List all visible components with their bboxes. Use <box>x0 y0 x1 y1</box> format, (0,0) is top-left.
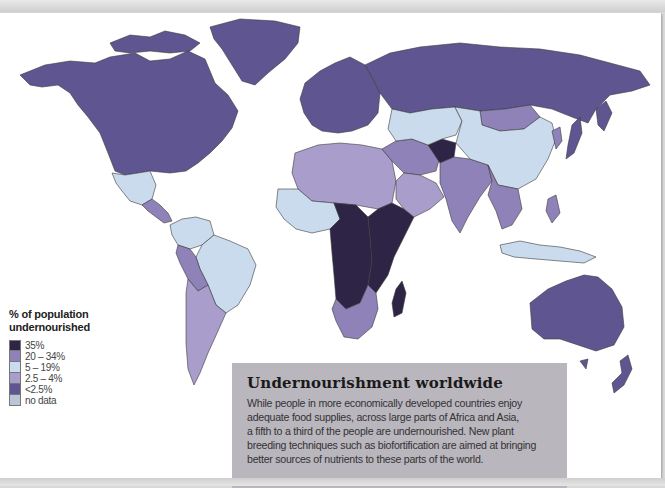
region-tasmania <box>580 359 588 369</box>
legend-swatch <box>9 384 21 395</box>
legend-item: 35% <box>9 340 119 351</box>
region-philippines <box>546 195 560 223</box>
info-box-line: adequate food supplies, across large par… <box>247 410 565 424</box>
legend-label: 5 – 19% <box>25 362 60 373</box>
legend-label: <2.5% <box>25 384 52 395</box>
legend-swatch <box>9 351 21 362</box>
region-greenland <box>210 19 300 85</box>
legend-title-line2: undernourished <box>9 321 119 334</box>
info-box-body: While people in more economically develo… <box>247 396 565 466</box>
legend-item: no data <box>9 395 119 406</box>
info-box-title: Undernourishment worldwide <box>247 374 567 392</box>
info-box-line: better sources of nutrients to these par… <box>247 452 565 466</box>
region-central-america <box>142 199 172 223</box>
legend-label: 20 – 34% <box>25 351 65 362</box>
map-legend: % of population undernourished 35% 20 – … <box>9 308 119 406</box>
top-strip <box>0 0 665 12</box>
region-australia <box>530 275 624 351</box>
region-central-asia <box>388 107 462 145</box>
legend-item: <2.5% <box>9 384 119 395</box>
legend-label: no data <box>25 395 56 406</box>
legend-title: % of population undernourished <box>9 308 119 334</box>
region-arctic-islands <box>110 31 200 53</box>
info-box-line: While people in more economically develo… <box>247 396 565 410</box>
region-india <box>440 157 492 233</box>
region-mexico <box>112 171 156 205</box>
legend-item: 5 – 19% <box>9 362 119 373</box>
map-page: % of population undernourished 35% 20 – … <box>0 13 661 478</box>
region-madagascar <box>392 281 406 317</box>
legend-item: 20 – 34% <box>9 351 119 362</box>
region-east-africa <box>368 203 414 293</box>
legend-label: 2.5 – 4% <box>25 373 62 384</box>
legend-label: 35% <box>25 340 44 351</box>
info-box: Undernourishment worldwide While people … <box>232 363 567 488</box>
info-box-line: a fifth to a third of the people are und… <box>247 424 565 438</box>
bottom-strip <box>0 478 665 486</box>
region-north-america <box>20 51 238 175</box>
legend-swatch <box>9 362 21 373</box>
info-box-line: breeding techniques such as biofortifica… <box>247 438 565 452</box>
legend-items: 35% 20 – 34% 5 – 19% 2.5 – 4% <2.5% no d… <box>9 340 119 406</box>
legend-swatch <box>9 373 21 384</box>
region-indonesia <box>500 241 596 263</box>
legend-item: 2.5 – 4% <box>9 373 119 384</box>
region-new-zealand <box>612 355 632 393</box>
legend-swatch <box>9 395 21 406</box>
legend-title-line1: % of population <box>9 308 119 321</box>
legend-swatch <box>9 340 21 351</box>
region-japan <box>566 117 582 159</box>
